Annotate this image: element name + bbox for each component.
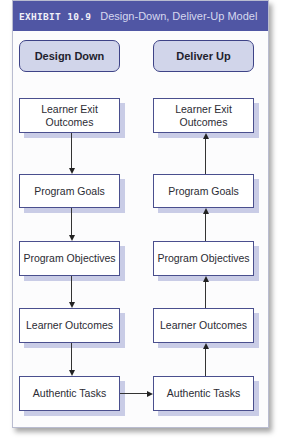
deliver-up-authentic-tasks: Authentic Tasks <box>153 376 254 411</box>
arrow-line <box>71 276 72 302</box>
box-label: Program Goals <box>168 185 239 198</box>
design-down-program-objectives: Program Objectives <box>19 241 120 276</box>
box-label: Program Objectives <box>157 252 249 265</box>
box-label: Program Objectives <box>23 252 115 265</box>
arrow-down-icon <box>69 235 75 241</box>
arrow-down-icon <box>69 302 75 308</box>
arrow-line <box>71 208 72 235</box>
box-label: Authentic Tasks <box>167 387 240 400</box>
design-down-program-goals: Program Goals <box>19 174 120 208</box>
exhibit-header: EXHIBIT 10.9 Design-Down, Deliver-Up Mod… <box>13 1 268 31</box>
design-down-authentic-tasks: Authentic Tasks <box>19 376 120 411</box>
arrow-down-icon <box>69 168 75 174</box>
arrow-line <box>120 393 147 394</box>
deliver-up-learner-outcomes: Learner Outcomes <box>153 308 254 343</box>
arrow-line <box>205 349 206 376</box>
box-label: Learner Outcomes <box>26 319 113 332</box>
arrow-line <box>71 343 72 370</box>
box-label: Learner Outcomes <box>160 319 247 332</box>
design-down-learner-exit-outcomes: Learner Exit Outcomes <box>19 98 120 133</box>
design-down-learner-outcomes: Learner Outcomes <box>19 308 120 343</box>
box-label: Program Goals <box>34 185 105 198</box>
deliver-up-learner-exit-outcomes: Learner Exit Outcomes <box>153 98 254 133</box>
exhibit-label: EXHIBIT 10.9 <box>19 11 91 22</box>
arrow-line <box>205 214 206 241</box>
box-label: Learner Exit Outcomes <box>154 103 253 129</box>
arrow-line <box>205 282 206 308</box>
design-down-heading: Design Down <box>19 40 120 72</box>
arrow-right-icon <box>147 391 153 397</box>
arrow-line <box>205 139 206 174</box>
deliver-up-program-goals: Program Goals <box>153 174 254 208</box>
deliver-up-program-objectives: Program Objectives <box>153 241 254 276</box>
arrow-line <box>71 133 72 168</box>
box-label: Authentic Tasks <box>33 387 106 400</box>
box-label: Learner Exit Outcomes <box>20 103 119 129</box>
deliver-up-heading: Deliver Up <box>153 40 254 72</box>
exhibit-title: Design-Down, Deliver-Up Model <box>100 10 257 22</box>
arrow-down-icon <box>69 370 75 376</box>
